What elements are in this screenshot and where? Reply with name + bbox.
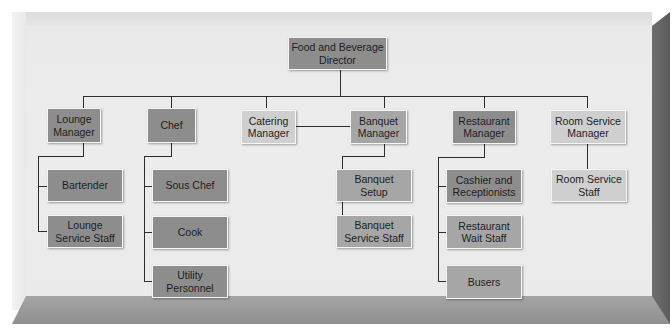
node-cook: Cook bbox=[152, 216, 228, 249]
node-banquet-setup: Banquet Setup bbox=[336, 169, 412, 202]
connector-catering-up bbox=[266, 96, 267, 108]
connector-roomservice-down bbox=[587, 143, 588, 170]
connector-busers bbox=[438, 281, 446, 282]
connector-lounge-elbow bbox=[38, 156, 84, 157]
node-restaurant-manager: Restaurant Manager bbox=[452, 110, 516, 144]
node-label: Lounge Service Staff bbox=[55, 219, 114, 244]
node-label: Room Service Manager bbox=[555, 115, 621, 140]
node-label: Busers bbox=[468, 276, 501, 289]
connector-banquet-elbow bbox=[342, 156, 385, 157]
node-label: Food and Beverage Director bbox=[291, 41, 383, 66]
panel-bevel-right bbox=[652, 12, 670, 324]
node-label: Banquet Manager bbox=[358, 115, 399, 140]
connector-roomservice-up bbox=[587, 96, 588, 108]
connector-banquet-down bbox=[384, 143, 385, 156]
node-label: Room Service Staff bbox=[556, 173, 622, 198]
node-label: Restaurant Wait Staff bbox=[458, 220, 509, 245]
org-chart-frame: Food and Beverage Director Lounge Manage… bbox=[0, 0, 672, 330]
connector-restaurant-up bbox=[484, 96, 485, 108]
node-label: Banquet Service Staff bbox=[344, 219, 403, 244]
node-banquet-service-staff: Banquet Service Staff bbox=[336, 215, 412, 248]
connector-chef-spine bbox=[144, 156, 145, 282]
connector-lounge-up bbox=[83, 96, 84, 108]
connector-lounge-staff bbox=[38, 231, 47, 232]
node-chef: Chef bbox=[147, 108, 196, 143]
node-utility-personnel: Utility Personnel bbox=[152, 265, 228, 298]
connector-restaurant-elbow bbox=[438, 157, 485, 158]
node-label: Banquet Setup bbox=[354, 173, 393, 198]
node-label: Catering Manager bbox=[248, 115, 289, 140]
connector-catering-banquet bbox=[295, 126, 350, 127]
connector-chef-elbow bbox=[144, 156, 172, 157]
connector-managers-bus bbox=[83, 96, 588, 97]
node-room-service-staff: Room Service Staff bbox=[551, 169, 627, 202]
node-label: Utility Personnel bbox=[166, 269, 213, 294]
node-label: Sous Chef bbox=[165, 179, 214, 192]
connector-banquet-up bbox=[384, 96, 385, 108]
node-lounge-service-staff: Lounge Service Staff bbox=[47, 215, 123, 248]
node-sous-chef: Sous Chef bbox=[152, 169, 228, 202]
node-food-beverage-director: Food and Beverage Director bbox=[288, 37, 387, 70]
connector-root-down bbox=[340, 70, 341, 97]
node-label: Chef bbox=[160, 119, 182, 132]
connector-lounge-down bbox=[83, 143, 84, 156]
connector-wait-staff bbox=[438, 232, 446, 233]
panel-bevel-bottom bbox=[12, 296, 670, 324]
node-room-service-manager: Room Service Manager bbox=[550, 110, 626, 144]
node-busers: Busers bbox=[446, 265, 522, 299]
node-banquet-manager: Banquet Manager bbox=[350, 110, 407, 144]
connector-chef-up bbox=[171, 96, 172, 108]
node-restaurant-wait-staff: Restaurant Wait Staff bbox=[446, 215, 522, 249]
connector-cashier bbox=[438, 186, 446, 187]
connector-lounge-spine bbox=[38, 156, 39, 232]
panel-bevel-top bbox=[12, 12, 652, 26]
connector-chef-down bbox=[171, 143, 172, 156]
node-label: Cook bbox=[178, 226, 203, 239]
node-bartender: Bartender bbox=[47, 169, 123, 202]
node-label: Restaurant Manager bbox=[458, 115, 509, 140]
node-cashier-receptionists: Cashier and Receptionists bbox=[446, 169, 522, 203]
node-lounge-manager: Lounge Manager bbox=[47, 108, 101, 143]
node-label: Lounge Manager bbox=[53, 113, 94, 138]
node-catering-manager: Catering Manager bbox=[241, 110, 296, 144]
node-label: Bartender bbox=[62, 179, 108, 192]
panel-bevel-left bbox=[12, 12, 26, 310]
connector-bartender bbox=[38, 186, 47, 187]
node-label: Cashier and Receptionists bbox=[452, 174, 515, 199]
connector-restaurant-spine bbox=[438, 157, 439, 282]
connector-restaurant-down bbox=[484, 143, 485, 157]
